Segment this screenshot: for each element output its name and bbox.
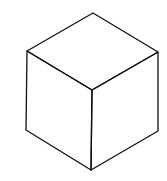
cube-outline — [26, 13, 158, 170]
cube-left-face — [26, 51, 92, 170]
cube-diagram — [0, 0, 167, 181]
cube-top-face — [27, 13, 158, 90]
cube-right-face — [91, 52, 158, 170]
